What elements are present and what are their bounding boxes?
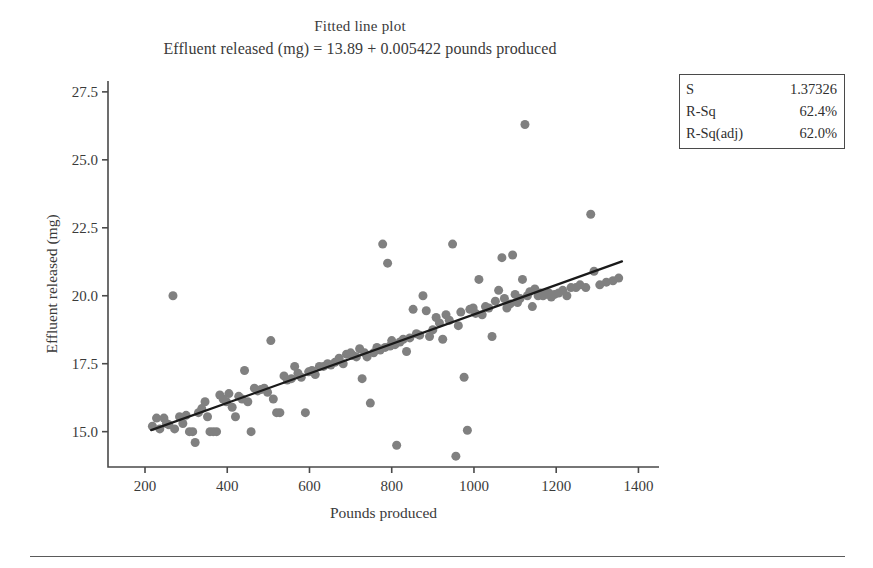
data-point (518, 275, 527, 284)
y-tick-label-2: 20.0 (30, 287, 98, 304)
data-point (402, 347, 411, 356)
data-point (520, 120, 529, 129)
data-point (212, 427, 221, 436)
data-point (456, 308, 465, 317)
stats-row-rsq: R-Sq 62.4% (680, 100, 844, 122)
data-point (266, 336, 275, 345)
y-tick-label-0: 15.0 (30, 423, 98, 440)
data-point (586, 210, 595, 219)
data-point (422, 306, 431, 315)
data-point (581, 283, 590, 292)
stats-label-rsq: R-Sq (686, 100, 716, 122)
data-point (269, 395, 278, 404)
x-axis-title: Pounds produced (108, 504, 659, 522)
stats-value-rsq-adj: 62.0% (800, 122, 837, 144)
footer-divider (30, 556, 845, 557)
data-point (275, 408, 284, 417)
x-tick-label-0: 200 (134, 478, 157, 495)
y-tick-label-5: 27.5 (30, 83, 98, 100)
data-point (463, 426, 472, 435)
x-tick-label-2: 600 (298, 478, 321, 495)
data-point (460, 373, 469, 382)
y-tick-label-1: 17.5 (30, 355, 98, 372)
data-point (392, 441, 401, 450)
data-point (497, 253, 506, 262)
data-point (168, 291, 177, 300)
data-point (508, 250, 517, 259)
data-point (451, 452, 460, 461)
x-tick-label-3: 800 (380, 478, 403, 495)
data-point (201, 397, 210, 406)
data-point (231, 412, 240, 421)
data-point (418, 291, 427, 300)
data-point (488, 332, 497, 341)
stats-label-rsq-adj: R-Sq(adj) (686, 122, 743, 144)
fitted-line-plot-figure: Fitted line plot Effluent released (mg) … (0, 0, 873, 568)
y-tick-label-3: 22.5 (30, 219, 98, 236)
data-point (528, 302, 537, 311)
data-point (366, 399, 375, 408)
y-tick-label-4: 25.0 (30, 151, 98, 168)
stats-value-s: 1.37326 (790, 78, 837, 100)
stats-value-rsq: 62.4% (800, 100, 837, 122)
data-point (203, 412, 212, 421)
data-point (562, 291, 571, 300)
y-axis-ticks (102, 92, 108, 432)
data-point (474, 275, 483, 284)
data-point (243, 397, 252, 406)
x-tick-label-5: 1200 (541, 478, 571, 495)
data-point (491, 297, 500, 306)
data-point (301, 408, 310, 417)
stats-row-s: S 1.37326 (680, 78, 844, 100)
data-point (614, 274, 623, 283)
y-axis-title: Effluent released (mg) (43, 144, 61, 424)
scatter-points (148, 120, 623, 461)
data-point (228, 403, 237, 412)
statistics-box: S 1.37326 R-Sq 62.4% R-Sq(adj) 62.0% (679, 74, 845, 149)
data-point (448, 240, 457, 249)
data-point (438, 335, 447, 344)
data-point (383, 259, 392, 268)
data-point (409, 305, 418, 314)
data-point (378, 240, 387, 249)
x-tick-label-4: 1000 (459, 478, 489, 495)
x-axis-ticks (145, 467, 638, 473)
x-tick-label-6: 1400 (623, 478, 653, 495)
data-point (247, 427, 256, 436)
x-tick-label-1: 400 (216, 478, 239, 495)
data-point (188, 427, 197, 436)
data-point (494, 286, 503, 295)
data-point (240, 366, 249, 375)
stats-label-s: S (686, 78, 694, 100)
stats-row-rsq-adj: R-Sq(adj) 62.0% (680, 122, 844, 144)
plot-frame (108, 81, 659, 467)
data-point (170, 424, 179, 433)
data-point (454, 321, 463, 330)
regression-line (151, 261, 622, 430)
data-point (191, 438, 200, 447)
data-point (358, 374, 367, 383)
data-point (224, 389, 233, 398)
